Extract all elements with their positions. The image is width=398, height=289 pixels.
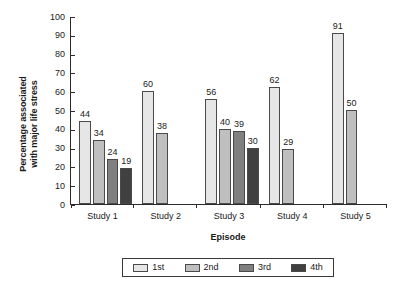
bar-value-label: 56 [206, 88, 216, 97]
bar-slot: 24 [107, 17, 119, 204]
legend-label: 1st [152, 263, 164, 272]
bar[interactable] [269, 87, 281, 204]
bar-slot: 38 [156, 17, 168, 204]
legend-swatch-icon [291, 264, 306, 272]
bar-slot: 30 [247, 17, 259, 204]
bar-slot: 39 [233, 17, 245, 204]
bar-slot: 29 [282, 17, 294, 204]
bar-slot [310, 17, 322, 204]
x-axis-tick-mark [323, 204, 324, 208]
bar[interactable] [93, 140, 105, 204]
bar-group-bars: 44342419 [71, 17, 134, 204]
bar-slot: 19 [120, 17, 132, 204]
x-axis-tick-label: Study 1 [71, 211, 134, 221]
bar[interactable] [332, 33, 344, 204]
bar-slot: 50 [346, 17, 358, 204]
bar-value-label: 19 [121, 157, 131, 166]
x-axis-tick-mark [71, 204, 72, 208]
bar-slot: 91 [332, 17, 344, 204]
x-axis-tick-label: Study 4 [261, 211, 324, 221]
bar-value-label: 39 [234, 120, 244, 129]
bar-group: 6229Study 4 [261, 17, 324, 204]
bar-value-label: 60 [143, 80, 153, 89]
bar-value-label: 24 [107, 148, 117, 157]
bar[interactable] [247, 148, 259, 204]
x-axis-tick-mark [386, 204, 387, 208]
x-axis-title: Episode [70, 232, 386, 242]
legend-item[interactable]: 3rd [239, 263, 271, 272]
bar-slot [184, 17, 196, 204]
bar-group-bars: 9150 [324, 17, 387, 204]
bar-value-label: 91 [333, 22, 343, 31]
bar-group: 56403930Study 3 [197, 17, 260, 204]
y-axis-tick-label: 20 [31, 163, 71, 172]
chart-legend: 1st2nd3rd4th [122, 258, 334, 277]
legend-swatch-icon [133, 264, 148, 272]
legend-item[interactable]: 2nd [185, 263, 219, 272]
x-axis-tick-mark [196, 204, 197, 208]
bar-slot: 34 [93, 17, 105, 204]
bar-group-bars: 6038 [134, 17, 197, 204]
bar[interactable] [219, 129, 231, 204]
bar-slot: 56 [205, 17, 217, 204]
y-axis-tick-label: 100 [31, 13, 71, 22]
bar[interactable] [156, 133, 168, 204]
bar-chart: Percentage associated with major life st… [0, 0, 398, 289]
legend-label: 3rd [258, 263, 271, 272]
y-axis-tick-label: 40 [31, 125, 71, 134]
legend-swatch-icon [239, 264, 254, 272]
bar-slot [359, 17, 371, 204]
bar-slot [296, 17, 308, 204]
bar-value-label: 29 [283, 138, 293, 147]
bar-group-bars: 6229 [261, 17, 324, 204]
bar-value-label: 34 [94, 129, 104, 138]
y-axis-title-line-1: Percentage associated [18, 29, 29, 219]
bar-group: 44342419Study 1 [71, 17, 134, 204]
bar[interactable] [107, 159, 119, 204]
y-axis-tick-label: 80 [31, 50, 71, 59]
x-axis-tick-label: Study 2 [134, 211, 197, 221]
legend-item[interactable]: 4th [291, 263, 323, 272]
x-axis-tick-mark [133, 204, 134, 208]
bar-value-label: 44 [80, 110, 90, 119]
bar[interactable] [142, 91, 154, 204]
plot-area: 1009080706050403020100 44342419Study 160… [70, 17, 387, 205]
bar-value-label: 38 [157, 122, 167, 131]
bar-group-bars: 56403930 [197, 17, 260, 204]
bar[interactable] [120, 168, 132, 204]
bar-value-label: 30 [248, 137, 258, 146]
legend-item[interactable]: 1st [133, 263, 164, 272]
y-axis-tick-label: 60 [31, 88, 71, 97]
bar-slot: 60 [142, 17, 154, 204]
legend-label: 4th [310, 263, 323, 272]
x-axis-tick-label: Study 5 [324, 211, 387, 221]
bar-value-label: 40 [220, 118, 230, 127]
y-axis-tick-label: 30 [31, 144, 71, 153]
legend-label: 2nd [204, 263, 219, 272]
bar-slot [373, 17, 385, 204]
bar-value-label: 50 [346, 99, 356, 108]
y-axis-tick-label: 0 [31, 201, 71, 210]
bar-slot: 44 [79, 17, 91, 204]
bar-slot [170, 17, 182, 204]
bar-value-label: 62 [269, 76, 279, 85]
bar[interactable] [233, 131, 245, 204]
x-axis-tick-label: Study 3 [197, 211, 260, 221]
bar-groups: 44342419Study 16038Study 256403930Study … [71, 17, 387, 204]
bar[interactable] [205, 99, 217, 204]
legend-swatch-icon [185, 264, 200, 272]
y-axis-tick-label: 90 [31, 31, 71, 40]
bar-group: 6038Study 2 [134, 17, 197, 204]
y-axis-tick-label: 50 [31, 107, 71, 116]
bar-slot: 40 [219, 17, 231, 204]
bar[interactable] [282, 149, 294, 204]
y-axis-tick-label: 70 [31, 69, 71, 78]
bar[interactable] [346, 110, 358, 204]
bar[interactable] [79, 121, 91, 204]
bar-slot: 62 [269, 17, 281, 204]
x-axis-tick-mark [260, 204, 261, 208]
bar-group: 9150Study 5 [324, 17, 387, 204]
y-axis-tick-label: 10 [31, 182, 71, 191]
